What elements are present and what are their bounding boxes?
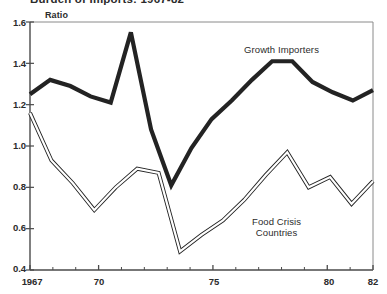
plot-area [0,0,387,294]
x-tick-marks [30,265,373,270]
x-tick-label-75: 75 [200,276,228,287]
x-tick-label-82: 82 [359,276,387,287]
chart-figure: Burden of Imports: 1967-82 Ratio 1.6 1.4… [0,0,387,294]
y-tick-label-4: 1.0 [0,140,26,151]
series-line-growth-importers [30,32,373,185]
chart-title: Burden of Imports: 1967-82 [0,0,387,5]
x-tick-label-1967: 1967 [12,276,52,287]
series-label-growth-importers: Growth Importers [244,44,319,55]
y-tick-label-2: 1.4 [0,58,26,69]
y-tick-label-7: 0.4 [0,263,26,274]
y-tick-label-6: 0.6 [0,222,26,233]
y-tick-label-1: 1.6 [0,17,26,28]
y-axis-unit-label: Ratio [45,10,68,20]
x-tick-label-80: 80 [315,276,343,287]
y-tick-label-5: 0.8 [0,181,26,192]
x-tick-label-70: 70 [85,276,113,287]
series-label-food-crisis: Food Crisis Countries [252,216,301,238]
y-tick-label-3: 1.2 [0,99,26,110]
